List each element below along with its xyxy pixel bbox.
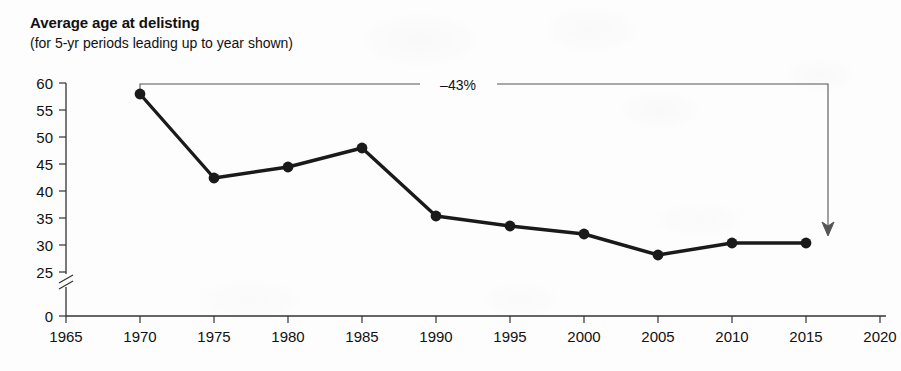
chart-figure: Average age at delisting (for 5-yr perio… [0, 0, 901, 371]
data-point-1995 [505, 221, 516, 232]
change-annotation-bracket [140, 84, 834, 236]
x-tick-label-1975: 1975 [197, 328, 230, 345]
data-point-1975 [209, 173, 220, 184]
y-tick-label-45: 45 [36, 156, 53, 173]
x-tick-label-1990: 1990 [419, 328, 452, 345]
y-axis-break-marker [59, 275, 73, 289]
y-tick-label-50: 50 [36, 129, 53, 146]
x-tick-label-2010: 2010 [715, 328, 748, 345]
chart-plot-area: 60 55 50 45 40 35 30 25 0 1965 1970 1975… [0, 0, 901, 371]
x-tick-label-1965: 1965 [49, 328, 82, 345]
y-tick-label-0: 0 [45, 308, 53, 325]
data-point-2015 [801, 238, 812, 249]
x-tick-label-1995: 1995 [493, 328, 526, 345]
x-tick-label-2015: 2015 [789, 328, 822, 345]
x-tick-label-1970: 1970 [123, 328, 156, 345]
y-tick-label-40: 40 [36, 183, 53, 200]
y-tick-label-25: 25 [36, 264, 53, 281]
y-tick-label-30: 30 [36, 237, 53, 254]
data-point-2010 [727, 238, 738, 249]
data-point-1985 [357, 143, 368, 154]
x-tick-label-1985: 1985 [345, 328, 378, 345]
data-point-1970 [135, 89, 146, 100]
x-tick-label-1980: 1980 [271, 328, 304, 345]
data-point-2000 [579, 229, 590, 240]
x-axis-ticks [66, 316, 880, 323]
x-tick-label-2020: 2020 [863, 328, 896, 345]
data-line-average-age [140, 94, 806, 255]
y-tick-label-55: 55 [36, 102, 53, 119]
data-point-1990 [431, 211, 442, 222]
y-tick-label-35: 35 [36, 210, 53, 227]
annotation-change-label: –43% [440, 77, 476, 93]
y-tick-label-60: 60 [36, 75, 53, 92]
data-point-2005 [653, 250, 664, 261]
data-point-1980 [283, 162, 294, 173]
x-tick-label-2000: 2000 [567, 328, 600, 345]
x-tick-label-2005: 2005 [641, 328, 674, 345]
